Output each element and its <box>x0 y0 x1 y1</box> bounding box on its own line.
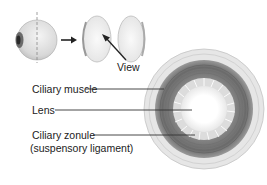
ciliary-body-cross-section <box>144 49 264 169</box>
arrow-right-icon <box>61 37 77 44</box>
label-ciliary-zonule: Ciliary zonule <box>32 129 95 141</box>
label-lens: Lens <box>32 104 55 116</box>
eye-halves-icon <box>83 16 145 62</box>
eyeball-icon <box>16 12 58 63</box>
label-view: View <box>117 61 140 73</box>
label-ciliary-muscle: Ciliary muscle <box>32 83 97 95</box>
label-suspensory-ligament: (suspensory ligament) <box>30 142 133 154</box>
